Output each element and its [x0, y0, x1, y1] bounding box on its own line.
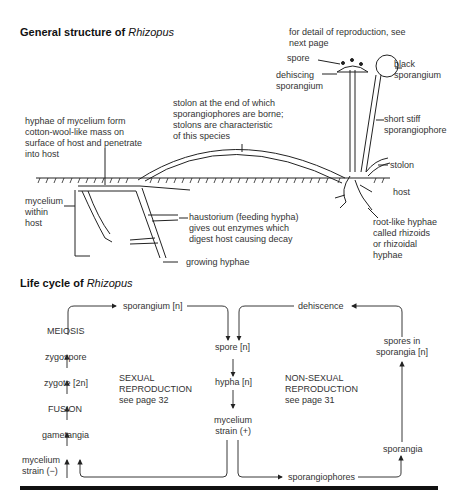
node-fusion: FUSION — [48, 404, 82, 415]
label-stolon-note: stolon at the end of which sporangiophor… — [173, 98, 284, 142]
structure-title-italic: Rhizopus — [128, 26, 174, 38]
note-non-sexual-reproduction: NON-SEXUAL REPRODUCTION see page 31 — [285, 373, 358, 406]
node-hypha-n: hypha [n] — [215, 377, 252, 388]
label-growing-hyphae: growing hyphae — [186, 257, 250, 268]
node-zygote: zygote [2n] — [44, 378, 88, 389]
node-mycelium-strain-plus: mycelium strain (+) — [214, 415, 252, 437]
node-spore-n: spore [n] — [215, 342, 250, 353]
node-dehiscence: dehiscence — [298, 301, 344, 312]
structure-title: General structure of Rhizopus — [20, 26, 174, 38]
label-host: host — [393, 187, 410, 198]
node-sporangia: sporangia — [383, 444, 423, 455]
label-stolon: stolon — [390, 160, 414, 171]
node-spores-in-sporangia: spores in sporangia [n] — [376, 336, 428, 358]
structure-title-text: General structure of — [20, 26, 128, 38]
lifecycle-title-italic: Rhizopus — [87, 277, 133, 289]
node-sporangiophores: sporangiophores — [288, 472, 355, 483]
label-short-stiff-sporangiophore: short stiff sporangiophore — [384, 114, 447, 136]
node-gametangia: gametangia — [42, 430, 89, 441]
label-rhizoids: root-like hyphae called rhizoids or rhiz… — [373, 217, 437, 261]
node-sporangium-n: sporangium [n] — [123, 301, 183, 312]
node-meiosis: MEIOSIS — [47, 326, 85, 337]
node-mycelium-strain-minus: mycelium strain (−) — [22, 455, 60, 477]
label-black-sporangium: black sporangium — [394, 59, 441, 81]
label-reproduction-note: for detail of reproduction, see next pag… — [289, 27, 406, 49]
label-haustorium: haustorium (feeding hypha) gives out enz… — [189, 212, 299, 245]
bottom-rule — [20, 486, 438, 490]
label-spore: spore — [287, 53, 310, 64]
note-sexual-reproduction: SEXUAL REPRODUCTION see page 32 — [119, 373, 192, 406]
label-dehiscing-sporangium: dehiscing sporangium — [276, 70, 323, 92]
lifecycle-title-text: Life cycle of — [20, 277, 87, 289]
node-zygospore: zygospore — [45, 352, 87, 363]
lifecycle-title: Life cycle of Rhizopus — [20, 277, 133, 289]
label-hyphae-note: hyphae of mycelium form cotton-wool-like… — [25, 116, 142, 160]
label-mycelium-within-host: mycelium within host — [25, 196, 63, 229]
